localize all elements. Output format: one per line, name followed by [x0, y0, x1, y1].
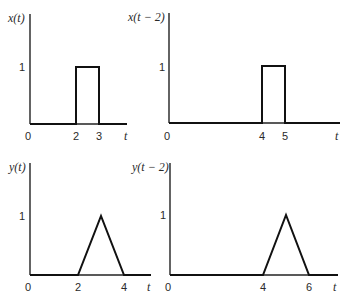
origin-label: 0: [25, 130, 31, 142]
ylabel-x: x(t): [7, 11, 25, 25]
tick-label: 3: [96, 130, 102, 142]
rect-pulse: [169, 66, 340, 123]
t-label: t: [147, 280, 151, 294]
triangle-pulse: [30, 216, 151, 275]
t-label: t: [124, 129, 128, 143]
panel-x: x(t) 1 0 2 3 t: [7, 11, 128, 143]
tick-label: 4: [259, 130, 265, 142]
tick-one: 1: [160, 209, 166, 221]
triangle-pulse: [170, 215, 338, 275]
ylabel-x-shift: x(t − 2): [127, 10, 165, 24]
panel-y: y(t) 1 0 2 4 t: [8, 160, 151, 294]
ylabel-y: y(t): [8, 160, 26, 174]
t-label: t: [333, 280, 337, 294]
ylabel-y-shift: y(t − 2): [131, 160, 169, 174]
signal-diagram: x(t) 1 0 2 3 t x(t − 2) 1 0 4 5 t y(t) 1…: [0, 0, 357, 301]
panel-x-shift: x(t − 2) 1 0 4 5 t: [127, 10, 340, 143]
tick-label: 4: [121, 281, 127, 293]
tick-one: 1: [19, 61, 25, 73]
tick-label: 5: [282, 130, 288, 142]
tick-one: 1: [19, 210, 25, 222]
tick-one: 1: [159, 61, 165, 73]
tick-label: 2: [75, 281, 81, 293]
origin-label: 0: [165, 281, 171, 293]
tick-label: 4: [260, 281, 266, 293]
origin-label: 0: [164, 130, 170, 142]
origin-label: 0: [25, 281, 31, 293]
tick-label: 6: [306, 281, 312, 293]
panel-y-shift: y(t − 2) 1 0 4 6 t: [131, 160, 338, 294]
t-label: t: [335, 129, 339, 143]
rect-pulse: [30, 67, 127, 124]
tick-label: 2: [73, 130, 79, 142]
